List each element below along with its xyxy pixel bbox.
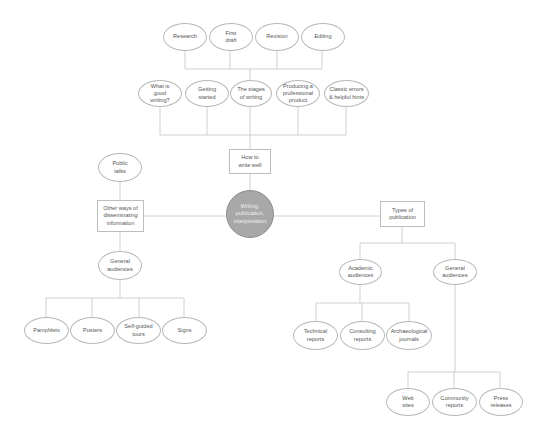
node-producing-professional-product[interactable]: Producing a professional product [276,80,320,107]
node-general-audiences-right[interactable]: General audiences [433,259,477,285]
node-getting-started[interactable]: Getting started [185,80,229,107]
node-signs[interactable]: Signs [162,317,207,344]
node-center-writing-publication-interpretation[interactable]: Writing, publication, interpretation [226,190,274,238]
node-revision[interactable]: Revision [255,23,299,51]
node-how-to-write-well[interactable]: How to write well [229,149,271,174]
node-self-guided-tours[interactable]: Self-guided tours [116,317,161,344]
node-stages-of-writing[interactable]: The stages of writing [230,80,272,107]
node-first-draft[interactable]: First draft [209,23,253,51]
node-archaeological-journals[interactable]: Archaeological journals [386,321,432,350]
node-pamphlets[interactable]: Pamphlets [24,317,69,344]
node-academic-audiences[interactable]: Academic audiences [339,259,382,285]
node-public-talks[interactable]: Public talks [98,153,142,182]
node-classic-errors[interactable]: Classic errors & helpful hints [324,80,369,107]
node-general-audiences-left[interactable]: General audiences [98,251,142,280]
node-what-is-good-writing[interactable]: What is good writing? [138,80,182,107]
node-other-ways-of-disseminating[interactable]: Other ways of disseminating information [97,200,144,232]
node-press-releases[interactable]: Press releases [479,388,523,416]
node-consulting-reports[interactable]: Consulting reports [340,321,385,350]
node-editing[interactable]: Editing [301,23,345,51]
node-web-sites[interactable]: Web sites [386,388,430,416]
node-technical-reports[interactable]: Technical reports [293,321,338,350]
node-types-of-publication[interactable]: Types of publication [380,201,425,227]
node-community-reports[interactable]: Community reports [432,388,477,416]
node-research[interactable]: Research [163,23,207,51]
node-posters[interactable]: Posters [70,317,115,344]
